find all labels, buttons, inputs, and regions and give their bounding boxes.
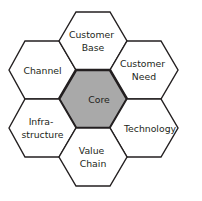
- hexagon-diagram: Channel Customer Base Customer Need Core: [0, 0, 202, 201]
- hex-label-core: Core: [88, 93, 110, 104]
- hexagon-diagram-canvas: Channel Customer Base Customer Need Core: [0, 0, 202, 201]
- hex-label-technology: Technology: [123, 122, 177, 133]
- hex-label-channel: Channel: [23, 64, 61, 75]
- hex-label-value-chain: Value Chain: [79, 145, 108, 169]
